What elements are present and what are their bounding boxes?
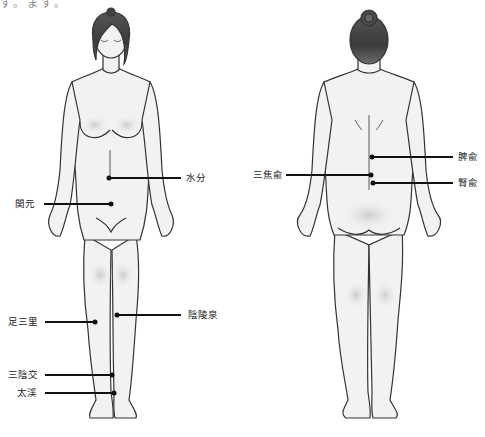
acupoint-label: 太渓 <box>17 388 37 398</box>
acupoint-dot <box>109 202 114 207</box>
leader-line <box>44 203 111 205</box>
acupoint-label: 陰陵泉 <box>188 310 218 320</box>
leader-line <box>45 392 114 394</box>
acupoint-label: 足三里 <box>8 317 38 327</box>
leader-line <box>109 177 181 179</box>
leader-line <box>117 314 181 316</box>
leader-line <box>45 321 95 323</box>
acupoint-label: 脾兪 <box>458 152 478 162</box>
back-body-figure <box>298 10 441 418</box>
acupoint-dot <box>93 320 98 325</box>
acupoint-label: 水分 <box>186 173 206 183</box>
acupoint-label: 三焦兪 <box>253 170 283 180</box>
leader-line <box>373 182 453 184</box>
acupoint-label: 腎兪 <box>458 178 478 188</box>
leader-line <box>372 156 453 158</box>
body-figures <box>0 0 485 437</box>
leader-line <box>45 374 112 376</box>
acupoint-label: 関元 <box>15 199 35 209</box>
acupoint-dot <box>369 173 374 178</box>
acupoint-dot <box>112 391 117 396</box>
front-body-figure <box>49 8 174 418</box>
leader-line <box>286 174 371 176</box>
acupoint-dot <box>110 373 115 378</box>
acupoint-label: 三陰交 <box>8 370 38 380</box>
